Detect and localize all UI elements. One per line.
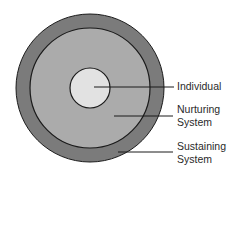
nurturing-label-line-1: Nurturing [177,103,220,116]
individual-circle [70,68,110,108]
individual-label-line: Individual [177,80,221,93]
sustaining-label-line-2: System [177,153,226,166]
sustaining-system-label: Sustaining System [177,140,226,166]
sustaining-label-line-1: Sustaining [177,140,226,153]
nurturing-system-label: Nurturing System [177,103,220,129]
nurturing-label-line-2: System [177,116,220,129]
individual-label: Individual [177,80,221,93]
